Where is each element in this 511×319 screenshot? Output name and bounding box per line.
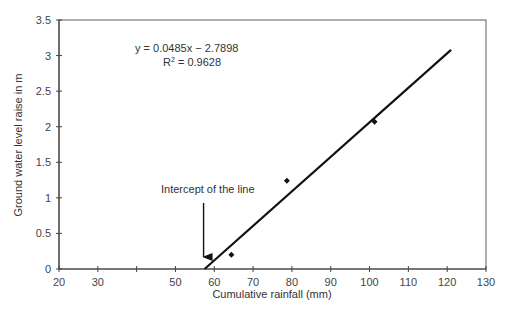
y-tick-label: 2 [45, 121, 51, 133]
y-tick-label: 2.5 [36, 85, 51, 97]
plot-border [59, 20, 486, 269]
x-tick-label: 130 [477, 276, 495, 288]
y-tick-label: 1 [45, 192, 51, 204]
diamond-marker-icon [228, 252, 234, 258]
plot-frame [59, 20, 486, 269]
x-tick-label: 60 [208, 276, 220, 288]
y-tick-label: 0 [45, 263, 51, 275]
r-squared-text: R2 = 0.9628 [163, 56, 221, 68]
x-tick-label: 70 [247, 276, 259, 288]
trendline-equation: y = 0.0485x − 2.7898 R2 = 0.9628 [135, 42, 238, 68]
x-tick-label: 100 [360, 276, 378, 288]
trend-line [205, 50, 451, 269]
y-tick-label: 0.5 [36, 227, 51, 239]
x-tick-label: 90 [325, 276, 337, 288]
y-axis: 00.511.522.533.5 [36, 14, 62, 275]
annotation-text: Intercept of the line [161, 183, 255, 195]
y-tick-label: 3.5 [36, 14, 51, 26]
x-tick-label: 110 [400, 276, 418, 288]
y-axis-title: Ground water level raise in m [12, 73, 24, 216]
y-tick-label: 3 [45, 50, 51, 62]
x-axis-title: Cumulative rainfall (mm) [212, 288, 331, 300]
x-tick-label: 50 [169, 276, 181, 288]
intercept-annotation: Intercept of the line [161, 183, 255, 257]
fit-line [205, 50, 451, 269]
x-tick-label: 120 [438, 276, 456, 288]
diamond-marker-icon [284, 178, 290, 184]
x-tick-label: 20 [53, 276, 65, 288]
x-tick-label: 30 [92, 276, 104, 288]
equation-text: y = 0.0485x − 2.7898 [135, 42, 238, 54]
x-tick-label: 80 [286, 276, 298, 288]
y-tick-label: 1.5 [36, 156, 51, 168]
scatter-chart: 20305060708090100110120130 00.511.522.53… [0, 0, 511, 319]
